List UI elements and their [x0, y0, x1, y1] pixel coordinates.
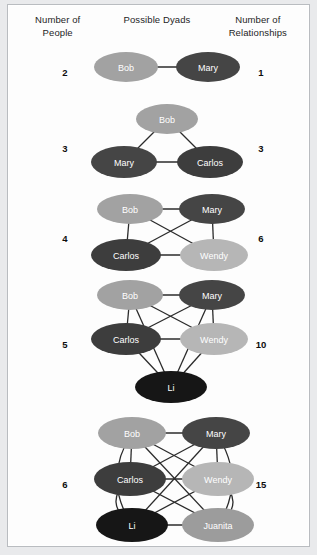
person-node[interactable]: Wendy [182, 462, 254, 496]
people-count: 4 [45, 233, 85, 244]
dyad-graph: BobMaryCarlosWendyLiJuanita [86, 415, 256, 555]
dyad-graph: BobMaryCarlos [86, 101, 256, 187]
person-ellipse [91, 146, 157, 178]
person-ellipse [176, 52, 240, 82]
person-node[interactable]: Mary [182, 417, 250, 449]
person-ellipse [177, 146, 243, 178]
person-node[interactable]: Wendy [180, 239, 248, 271]
person-ellipse [182, 417, 250, 449]
person-node[interactable]: Bob [97, 280, 163, 310]
person-ellipse [91, 239, 161, 271]
person-node[interactable]: Carlos [91, 239, 161, 271]
header-line-2: Relationships [207, 27, 309, 40]
person-ellipse [136, 104, 198, 134]
graph-nodes: BobMaryCarlosWendy [91, 194, 248, 271]
people-count: 6 [45, 479, 85, 490]
person-ellipse [91, 323, 161, 355]
person-node[interactable]: Li [135, 371, 207, 403]
header-possible-dyads: Possible Dyads [107, 14, 206, 39]
figure-panel: Number of People Possible Dyads Number o… [7, 4, 310, 547]
person-node[interactable]: Bob [98, 417, 166, 449]
person-node[interactable]: Carlos [91, 323, 161, 355]
column-headers: Number of People Possible Dyads Number o… [8, 14, 309, 39]
person-node[interactable]: Carlos [94, 462, 166, 496]
person-ellipse [94, 462, 166, 496]
dyad-graph: BobMaryCarlosWendy [86, 189, 256, 277]
person-ellipse [135, 371, 207, 403]
dyad-row: 510BobMaryCarlosWendyLi [8, 277, 309, 409]
person-ellipse [96, 508, 168, 542]
person-node[interactable]: Bob [136, 104, 198, 134]
people-count: 2 [45, 67, 85, 78]
dyad-graph: BobMary [86, 45, 256, 97]
person-node[interactable]: Mary [176, 52, 240, 82]
people-count: 5 [45, 339, 85, 350]
header-number-of-relationships: Number of Relationships [207, 14, 309, 39]
header-line-1: Possible Dyads [107, 14, 206, 27]
dyad-graph: BobMaryCarlosWendyLi [86, 277, 256, 409]
graph-nodes: BobMaryCarlosWendyLi [91, 280, 248, 403]
person-node[interactable]: Bob [94, 52, 158, 82]
header-line-1: Number of [207, 14, 309, 27]
person-ellipse [94, 52, 158, 82]
person-node[interactable]: Li [96, 508, 168, 542]
person-node[interactable]: Juanita [182, 508, 254, 542]
dyad-row: 21BobMary [8, 45, 309, 97]
people-count: 3 [45, 143, 85, 154]
header-line-1: Number of [8, 14, 107, 27]
dyad-row: 46BobMaryCarlosWendy [8, 189, 309, 277]
person-ellipse [179, 194, 245, 224]
person-ellipse [98, 417, 166, 449]
header-line-2: People [8, 27, 107, 40]
person-node[interactable]: Carlos [177, 146, 243, 178]
person-ellipse [180, 323, 248, 355]
person-node[interactable]: Mary [179, 194, 245, 224]
person-ellipse [182, 508, 254, 542]
graph-nodes: BobMaryCarlos [91, 104, 243, 178]
dyad-row: 615BobMaryCarlosWendyLiJuanita [8, 415, 309, 555]
person-ellipse [179, 280, 245, 310]
person-ellipse [97, 280, 163, 310]
person-ellipse [182, 462, 254, 496]
person-ellipse [180, 239, 248, 271]
person-node[interactable]: Bob [97, 194, 163, 224]
person-node[interactable]: Mary [179, 280, 245, 310]
header-number-of-people: Number of People [8, 14, 107, 39]
dyad-row: 33BobMaryCarlos [8, 101, 309, 187]
person-node[interactable]: Wendy [180, 323, 248, 355]
person-ellipse [97, 194, 163, 224]
person-node[interactable]: Mary [91, 146, 157, 178]
